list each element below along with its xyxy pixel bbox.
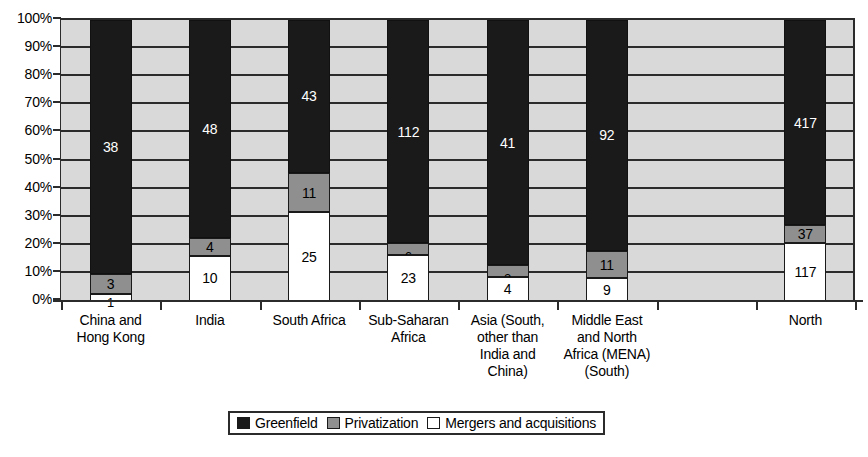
bar-segment-value: 4 <box>504 282 512 296</box>
gridline <box>61 159 853 161</box>
bar-segment-value: 43 <box>302 89 317 103</box>
bar-segment-value: 117 <box>795 265 817 279</box>
bar-segment-value: 37 <box>798 227 813 241</box>
gridline <box>61 215 853 217</box>
bar-segment-value: 1 <box>107 296 114 309</box>
bar-segment-privatization[interactable]: 4 <box>189 238 231 256</box>
bar-segment-value: 10 <box>202 271 217 285</box>
chart-legend: GreenfieldPrivatizationMergers and acqui… <box>228 411 605 435</box>
bar-segment-value: 25 <box>302 250 317 264</box>
bar-segment-mergers[interactable]: 117 <box>784 243 826 301</box>
bar-segment-value: 9 <box>603 283 611 297</box>
bar-segment-greenfield[interactable]: 417 <box>784 20 826 225</box>
bar-segment-value: 38 <box>103 140 118 154</box>
x-axis-category-label: Middle Eastand NorthAfrica (MENA)(South) <box>549 312 665 380</box>
plot-area: 38314841043112511262341249211941737117 <box>61 18 855 301</box>
bar-stack[interactable]: 431125 <box>288 20 330 301</box>
bar-segment-greenfield[interactable]: 41 <box>487 20 529 265</box>
bar-segment-value: 48 <box>202 122 217 136</box>
bar-segment-value: 112 <box>398 125 420 139</box>
bar-segment-value: 92 <box>599 128 614 142</box>
x-axis-tick <box>458 302 460 310</box>
y-axis-tick-label: 40% <box>25 180 52 194</box>
category-label-line: and North <box>549 329 665 346</box>
bar-segment-value: 11 <box>302 186 316 200</box>
bar-stack[interactable]: 92119 <box>586 20 628 301</box>
bar-segment-greenfield[interactable]: 48 <box>189 20 231 238</box>
bar-segment-greenfield[interactable]: 38 <box>90 20 132 274</box>
bar-stack[interactable]: 112623 <box>387 20 429 301</box>
y-axis-tick-label: 50% <box>25 152 52 166</box>
bar-segment-greenfield[interactable]: 43 <box>288 20 330 173</box>
y-axis-tick-label: 20% <box>25 236 52 250</box>
x-axis-tick <box>855 302 857 310</box>
gridline <box>61 243 853 245</box>
bar-segment-greenfield[interactable]: 112 <box>387 20 429 243</box>
gridline <box>61 187 853 189</box>
bar-segment-privatization[interactable]: 37 <box>784 225 826 243</box>
y-axis-tick-label: 0% <box>32 292 52 306</box>
x-axis-tick <box>657 302 659 310</box>
category-label-line: Hong Kong <box>53 329 169 346</box>
bar-segment-value: 3 <box>107 277 115 291</box>
y-axis-tick-label: 60% <box>25 123 52 137</box>
gridline <box>61 102 853 104</box>
bar-segment-value: 41 <box>500 136 515 150</box>
bar-stack[interactable]: 48410 <box>189 20 231 301</box>
category-label-line: Africa (MENA) <box>549 346 665 363</box>
bar-segment-mergers[interactable]: 4 <box>487 277 529 301</box>
legend-item-mergers[interactable]: Mergers and acquisitions <box>427 416 596 430</box>
bar-segment-mergers[interactable]: 25 <box>288 212 330 301</box>
x-axis-tick <box>359 302 361 310</box>
legend-label: Privatization <box>345 416 419 430</box>
legend-item-privatization[interactable]: Privatization <box>327 416 419 430</box>
bar-segment-value: 23 <box>401 271 416 285</box>
bar-segment-greenfield[interactable]: 92 <box>586 20 628 251</box>
bar-segment-privatization[interactable]: 11 <box>586 251 628 279</box>
legend-swatch-greenfield-icon <box>237 417 250 429</box>
gridline <box>61 74 853 76</box>
y-axis-tick-label: 10% <box>25 264 52 278</box>
gridline <box>61 46 853 48</box>
bar-segment-value: 417 <box>794 116 817 130</box>
bar-segment-privatization[interactable]: 3 <box>90 274 132 294</box>
x-axis-tick <box>260 302 262 310</box>
plot-top-border <box>61 18 853 20</box>
bar-stack[interactable]: 3831 <box>90 20 132 301</box>
y-axis-tick-label: 30% <box>25 208 52 222</box>
bar-segment-mergers[interactable]: 23 <box>387 255 429 301</box>
legend-swatch-privatization-icon <box>327 417 340 429</box>
x-axis-tick <box>61 302 63 310</box>
legend-label: Mergers and acquisitions <box>445 416 596 430</box>
gridline <box>61 130 853 132</box>
y-axis-tick-label: 100% <box>17 11 52 25</box>
y-axis-tick-label: 80% <box>25 67 52 81</box>
bar-segment-mergers[interactable]: 9 <box>586 278 628 301</box>
category-label-line: Middle East <box>549 312 665 329</box>
gridline <box>61 271 853 273</box>
bar-segment-mergers[interactable]: 10 <box>189 256 231 301</box>
x-axis-tick <box>756 302 758 310</box>
bar-segment-value: 4 <box>206 240 214 254</box>
bar-segment-value: 11 <box>600 258 614 272</box>
legend-item-greenfield[interactable]: Greenfield <box>237 416 318 430</box>
category-label-line: North <box>747 312 863 329</box>
x-axis-category-label: North <box>747 312 863 329</box>
bar-stack[interactable]: 41737117 <box>784 20 826 301</box>
x-axis-tick <box>160 302 162 310</box>
bar-stack[interactable]: 4124 <box>487 20 529 301</box>
bar-segment-privatization[interactable]: 2 <box>487 265 529 277</box>
y-axis-tick-label: 90% <box>25 39 52 53</box>
category-label-line: (South) <box>549 363 665 380</box>
x-axis-tick <box>557 302 559 310</box>
y-axis-labels: 0%10%20%30%40%50%60%70%80%90%100% <box>0 18 52 300</box>
legend-label: Greenfield <box>255 416 318 430</box>
bar-segment-privatization[interactable]: 11 <box>288 173 330 212</box>
bar-segment-privatization[interactable]: 6 <box>387 243 429 255</box>
y-axis-tick-label: 70% <box>25 95 52 109</box>
legend-swatch-mergers-icon <box>427 417 440 429</box>
stacked-bar-chart: 0%10%20%30%40%50%60%70%80%90%100% 383148… <box>0 0 868 457</box>
